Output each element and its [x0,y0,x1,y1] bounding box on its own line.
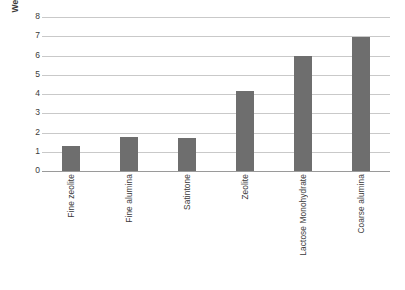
y-tick-label: 7 [26,31,40,40]
y-tick-label: 0 [26,166,40,175]
gridline [42,75,390,76]
gridline [42,113,390,114]
y-tick-label: 6 [26,51,40,60]
y-tick-label: 3 [26,108,40,117]
x-tick-label: Fine alumina [124,174,134,223]
y-tick-label: 1 [26,147,40,156]
x-axis-category-labels: Fine zeoliteFine aluminaSatintoneZeolite… [42,174,390,284]
y-tick-label: 4 [26,89,40,98]
gridline [42,17,390,18]
bar [294,56,312,171]
gridline [42,133,390,134]
gridline [42,36,390,37]
plot-area [42,17,390,171]
y-tick-label: 2 [26,128,40,137]
bar [178,138,196,171]
bar-chart: Weighted Euclidean Distance 876543210 Fi… [0,0,405,290]
x-tick-label: Fine zeolite [66,174,76,218]
x-tick-label: Satintone [182,174,192,210]
gridline [42,56,390,57]
x-tick-label: Lactose Monohydrate [298,174,308,256]
gridline [42,94,390,95]
bar [352,37,370,171]
gridline [42,152,390,153]
y-tick-label: 5 [26,70,40,79]
gridline [42,171,390,172]
bar [236,91,254,171]
bar [120,137,138,171]
x-tick-label: Coarse alumina [356,174,366,234]
x-tick-label: Zeolite [240,174,250,200]
y-tick-label: 8 [26,12,40,21]
bar [62,146,80,171]
